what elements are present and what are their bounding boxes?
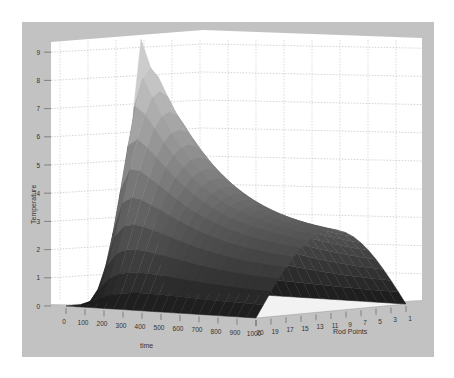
y-tick-label: 9 [348,321,352,328]
figure: 0123456789 01002003004005006007008009001… [0,0,454,378]
x-tick-label: 100 [78,319,89,326]
z-tick-label: 0 [36,303,40,310]
x-axis-label: time [140,342,153,349]
y-axis-label: Rod Points [333,328,368,335]
y-tick-label: 17 [286,326,294,333]
x-tick-label: 200 [97,320,108,327]
z-axis-label: Temperature [30,185,38,224]
x-tick-label: 800 [211,328,222,335]
z-tick-label: 6 [36,133,40,140]
surface-plot: 0123456789 01002003004005006007008009001… [0,0,454,378]
x-tick-label: 300 [116,322,127,329]
y-tick-label: 13 [316,323,324,330]
z-tick-label: 1 [36,274,40,281]
x-tick-label: 700 [192,326,203,333]
y-tick-label: 7 [363,319,367,326]
z-tick-label: 5 [36,162,40,169]
y-tick-label: 3 [393,316,397,323]
y-tick-label: 1 [408,315,412,322]
x-tick-label: 0 [62,318,66,325]
z-tick-label: 8 [36,77,40,84]
z-tick-label: 9 [36,49,40,56]
x-tick-label: 500 [154,324,165,331]
y-tick-label: 19 [271,328,279,335]
x-tick-label: 900 [230,329,241,336]
x-tick-label: 400 [135,323,146,330]
z-tick-label: 2 [36,246,40,253]
y-tick-label: 15 [301,325,309,332]
x-tick-label: 600 [173,325,184,332]
y-tick-label: 5 [378,318,382,325]
y-tick-label: 20 [256,329,264,336]
z-tick-label: 7 [36,105,40,112]
